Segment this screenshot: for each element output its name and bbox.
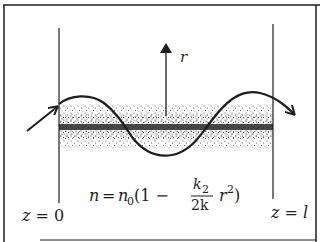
incoming-ray-arrow [27,107,57,131]
left-plane-label: z = 0 [21,206,64,225]
svg-text:2: 2 [227,183,234,196]
svg-text:k: k [193,176,201,192]
svg-text:2k: 2k [191,197,209,213]
right-plane-label: z = l [270,203,308,222]
svg-text:): ) [234,186,240,205]
svg-text:0: 0 [127,195,134,208]
index-profile-formula: n = n 0 (1 − k 2 2k r 2 ) [89,176,240,213]
svg-text:2: 2 [202,183,209,196]
r-axis-label: r [180,48,188,66]
diagram-canvas: r z = 0 z = l n = n 0 (1 − k 2 2k r 2 ) [0,0,320,242]
svg-text:(1 −: (1 − [134,186,169,205]
svg-text:=: = [102,186,115,205]
svg-text:n: n [89,186,99,205]
